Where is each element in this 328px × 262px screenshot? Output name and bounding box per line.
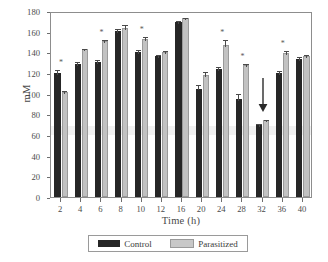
bar-parasitized-8h bbox=[122, 28, 128, 197]
x-axis-label: Time (h) bbox=[50, 215, 312, 226]
x-axis-tick-mark bbox=[141, 198, 142, 202]
error-bar-cap bbox=[284, 51, 289, 52]
x-axis-tick-mark bbox=[80, 198, 81, 202]
error-bar-cap bbox=[243, 64, 248, 65]
bar-parasitized-40h bbox=[303, 56, 309, 197]
error-bar-cap bbox=[216, 67, 221, 68]
error-bar-cap bbox=[75, 62, 80, 63]
bar-parasitized-24h bbox=[223, 45, 229, 197]
y-axis-tick-label: 20 bbox=[8, 173, 40, 182]
y-axis-tick-mark bbox=[47, 198, 51, 199]
bar-parasitized-36h bbox=[283, 53, 289, 197]
error-bar-cap bbox=[183, 18, 188, 19]
y-axis-tick-mark bbox=[47, 115, 51, 116]
y-axis-tick-label: 140 bbox=[8, 49, 40, 58]
x-axis-tick-label-2h: 2 bbox=[58, 204, 62, 214]
x-axis-tick-mark bbox=[302, 198, 303, 202]
legend-swatch-parasitized bbox=[170, 239, 194, 248]
bar-control-2h bbox=[54, 73, 60, 197]
y-axis-tick-label: 80 bbox=[8, 111, 40, 120]
bar-control-28h bbox=[236, 99, 242, 197]
bar-control-8h bbox=[115, 31, 121, 197]
plot-inner: ****** bbox=[51, 13, 311, 197]
legend-label-control: Control bbox=[124, 239, 152, 249]
significance-asterisk-24h: * bbox=[220, 29, 224, 37]
x-axis-tick-label-16h: 16 bbox=[177, 204, 186, 214]
y-axis-tick-label: 60 bbox=[8, 132, 40, 141]
y-axis-tick-mark bbox=[47, 177, 51, 178]
error-bar-line bbox=[225, 40, 226, 47]
error-bar-cap bbox=[236, 94, 241, 95]
bar-parasitized-6h bbox=[102, 41, 108, 197]
error-bar-cap bbox=[156, 55, 161, 56]
bar-parasitized-28h bbox=[243, 65, 249, 197]
y-axis-tick-mark bbox=[47, 157, 51, 158]
error-bar-cap bbox=[176, 21, 181, 22]
error-bar-cap bbox=[297, 57, 302, 58]
bar-parasitized-4h bbox=[82, 49, 88, 197]
chart-legend: Control Parasitized bbox=[88, 235, 248, 252]
bar-parasitized-20h bbox=[203, 75, 209, 197]
y-axis-tick-label: 100 bbox=[8, 91, 40, 100]
bar-parasitized-2h bbox=[62, 92, 68, 197]
x-axis-tick-mark bbox=[181, 198, 182, 202]
bar-control-32h bbox=[256, 125, 262, 197]
error-bar-cap bbox=[264, 120, 269, 121]
error-bar-cap bbox=[143, 37, 148, 38]
x-axis-tick-mark bbox=[100, 198, 101, 202]
error-bar-cap bbox=[203, 72, 208, 73]
x-axis-tick-mark bbox=[221, 198, 222, 202]
bar-parasitized-12h bbox=[162, 52, 168, 197]
y-axis-tick-mark bbox=[47, 33, 51, 34]
error-bar-cap bbox=[62, 91, 67, 92]
y-axis-tick-mark bbox=[47, 12, 51, 13]
y-axis-tick-label: 0 bbox=[8, 194, 40, 203]
x-axis-tick-mark bbox=[161, 198, 162, 202]
error-bar-cap bbox=[95, 60, 100, 61]
legend-item-control: Control bbox=[98, 239, 152, 249]
y-axis-tick-mark bbox=[47, 74, 51, 75]
x-axis-tick-label-24h: 24 bbox=[217, 204, 226, 214]
x-axis-tick-label-20h: 20 bbox=[197, 204, 206, 214]
legend-item-parasitized: Parasitized bbox=[170, 239, 238, 249]
bar-parasitized-32h bbox=[263, 120, 269, 197]
x-axis-tick-mark bbox=[201, 198, 202, 202]
x-axis-tick-mark bbox=[241, 198, 242, 202]
significance-asterisk-28h: * bbox=[240, 53, 244, 61]
bar-parasitized-16h bbox=[182, 18, 188, 197]
x-axis-tick-label-8h: 8 bbox=[118, 204, 122, 214]
bar-control-20h bbox=[196, 89, 202, 198]
y-axis-tick-label: 160 bbox=[8, 29, 40, 38]
error-bar-line bbox=[238, 94, 239, 101]
significance-asterisk-2h: * bbox=[59, 59, 63, 67]
error-bar-cap bbox=[82, 49, 87, 50]
bar-chart-figure: mM 020406080100120140160180 ****** 24681… bbox=[0, 0, 328, 262]
error-bar-cap bbox=[163, 51, 168, 52]
bar-control-12h bbox=[155, 56, 161, 197]
error-bar-cap bbox=[277, 71, 282, 72]
bar-control-4h bbox=[75, 64, 81, 197]
x-axis-tick-mark bbox=[60, 198, 61, 202]
error-bar-cap bbox=[122, 25, 127, 26]
y-axis-tick-mark bbox=[47, 136, 51, 137]
x-axis-tick-label-6h: 6 bbox=[98, 204, 102, 214]
x-axis-tick-label-40h: 40 bbox=[298, 204, 307, 214]
down-arrow-annotation bbox=[255, 78, 271, 116]
error-bar-cap bbox=[196, 85, 201, 86]
y-axis-tick-mark bbox=[47, 53, 51, 54]
y-axis-tick-label: 40 bbox=[8, 153, 40, 162]
significance-asterisk-10h: * bbox=[140, 26, 144, 34]
x-axis-tick-mark bbox=[121, 198, 122, 202]
x-axis-tick-label-28h: 28 bbox=[237, 204, 246, 214]
x-axis-tick-label-4h: 4 bbox=[78, 204, 82, 214]
y-axis-tick-label: 120 bbox=[8, 70, 40, 79]
error-bar-cap bbox=[136, 50, 141, 51]
plot-area: ****** bbox=[50, 12, 312, 198]
error-bar-cap bbox=[115, 29, 120, 30]
error-bar-cap bbox=[256, 124, 261, 125]
y-axis-tick-label: 180 bbox=[8, 8, 40, 17]
bar-control-36h bbox=[276, 73, 282, 197]
bar-control-40h bbox=[296, 59, 302, 197]
x-axis-tick-label-32h: 32 bbox=[257, 204, 266, 214]
error-bar-cap bbox=[304, 55, 309, 56]
